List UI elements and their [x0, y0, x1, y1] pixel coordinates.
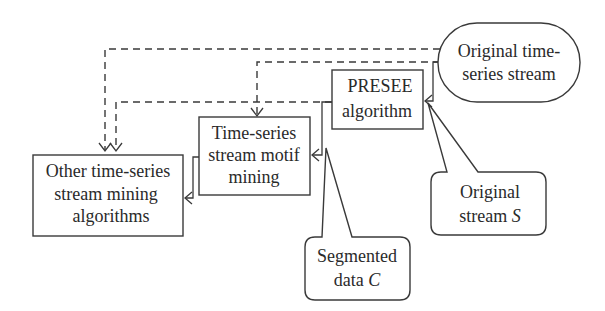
node-original-stream-line1: Original time-: [458, 41, 560, 61]
node-other-algorithms: Other time-series stream mining algorith…: [33, 155, 183, 236]
node-motif-mining-line3: mining: [228, 167, 279, 187]
callout-original-stream-s-line2: stream S: [459, 206, 520, 226]
node-presee-line2: algorithm: [342, 101, 412, 121]
node-presee-line1: PRESEE: [347, 76, 412, 96]
edge-presee-to-motif: [312, 102, 332, 161]
callout-segmented-data-c-line2: data C: [334, 270, 381, 290]
callout-segmented-data-c-line1: Segmented: [317, 246, 397, 266]
node-presee: PRESEE algorithm: [332, 70, 423, 129]
callout-original-stream-s: Original stream S: [428, 103, 546, 235]
diagram-canvas: Original time- series stream PRESEE algo…: [0, 0, 605, 311]
node-motif-mining-line1: Time-series: [212, 123, 296, 143]
node-motif-mining: Time-series stream motif mining: [199, 117, 310, 195]
edge-motif-to-other: [185, 157, 199, 204]
node-original-stream: Original time- series stream: [438, 23, 580, 102]
callout-segmented-data-c: Segmented data C: [305, 148, 410, 300]
node-motif-mining-line2: stream motif: [208, 145, 299, 165]
callout-original-stream-s-line1: Original: [460, 182, 520, 202]
node-original-stream-line2: series stream: [462, 64, 555, 84]
node-other-algorithms-line2: stream mining: [54, 184, 157, 204]
node-other-algorithms-line3: algorithms: [73, 206, 150, 226]
node-other-algorithms-line1: Other time-series: [46, 161, 170, 181]
